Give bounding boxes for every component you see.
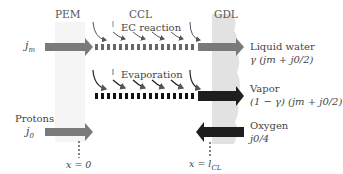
protons-label: Protons: [15, 113, 54, 124]
x0-label: x = 0: [66, 159, 91, 170]
ccl-label: CCL: [129, 8, 152, 20]
pem-label: PEM: [55, 8, 80, 20]
vapor-label: Vapor: [250, 83, 279, 94]
xl-label: x = lCL: [189, 158, 221, 172]
oxygen-label: Oxygen: [250, 120, 288, 131]
gdl-band: [212, 14, 240, 144]
liquid-water-label: Liquid water: [250, 41, 315, 52]
pem-band: [55, 22, 85, 142]
vapor-expr: (1 − γ) (jm + j0/2): [250, 96, 342, 107]
jm-label: jm: [25, 39, 35, 54]
ec-reaction-label: EC reaction: [121, 22, 181, 33]
liquid-water-expr: γ (jm + j0/2): [250, 54, 313, 65]
gdl-label: GDL: [214, 8, 238, 20]
evaporation-label: Evaporation: [121, 69, 183, 80]
j0-label: j0: [26, 125, 34, 140]
oxygen-expr: j0/4: [250, 133, 269, 144]
